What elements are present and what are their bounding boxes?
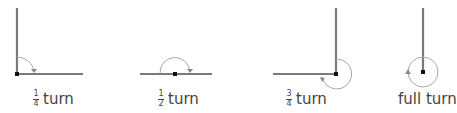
full-turn-vertex [421,70,425,74]
fraction-numerator: 3 [286,90,291,98]
full-turn-figure [405,8,438,87]
three-quarter-turn-label: 3 4 turn [286,90,327,108]
quarter-turn-label: 1 4 turn [33,90,74,108]
fraction-denominator: 4 [286,100,291,108]
fraction-numerator: 1 [158,90,163,98]
three-quarter-turn-fraction: 3 4 [286,90,292,108]
three-quarter-turn-vertex [334,72,338,76]
half-turn-label: 1 2 turn [158,90,199,108]
three-quarter-turn-figure [273,8,352,89]
half-turn-arc [160,57,190,73]
half-turn-arrowhead-icon [187,69,193,73]
three-quarter-turn-word: turn [296,90,327,108]
quarter-turn-vertex [15,72,19,76]
half-turn-fraction: 1 2 [158,90,164,108]
three-quarter-turn-arrowhead-icon [320,77,325,82]
half-turn-vertex [173,72,177,76]
quarter-turn-arrowhead-icon [31,69,37,73]
quarter-turn-fraction: 1 4 [33,90,39,108]
quarter-turn-arc [17,57,34,72]
quarter-turn-word: turn [43,90,74,108]
fraction-numerator: 1 [33,90,38,98]
half-turn-figure [140,57,212,76]
fraction-denominator: 2 [158,100,163,108]
half-turn-word: turn [168,90,199,108]
full-turn-arrowhead-icon [405,69,411,74]
full-turn-label: full turn [398,90,457,108]
fraction-denominator: 4 [33,100,38,108]
full-turn-word: full turn [398,90,457,108]
quarter-turn-figure [15,8,83,76]
